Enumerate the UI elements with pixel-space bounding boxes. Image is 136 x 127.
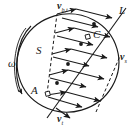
point-marker-C [85, 34, 90, 39]
rotation-arc-outer [16, 26, 31, 94]
velocity-arrow [66, 92, 100, 101]
velocity-arrow [53, 57, 89, 66]
label-point-C: C [93, 29, 100, 40]
velocity-arrow [68, 70, 104, 79]
intersection-dot [66, 62, 70, 66]
velocity-arrow [48, 97, 82, 107]
label-v-bottom: vt [57, 114, 63, 126]
label-line-L: L [119, 5, 125, 16]
velocity-arrow [52, 49, 71, 54]
rotation-arc-group [15, 26, 31, 94]
velocity-arrow [49, 70, 68, 75]
label-surface-S: S [36, 45, 42, 56]
velocity-arrow [55, 28, 74, 33]
dashed-boundaries-group [47, 14, 120, 112]
label-omega: ω [8, 58, 16, 69]
intersection-dot [92, 22, 96, 26]
label-v-right: vs [120, 52, 127, 64]
point-marker-A [45, 91, 50, 96]
intersection-dot [55, 81, 59, 85]
intersection-dot [79, 42, 83, 46]
velocity-arrow [76, 9, 112, 18]
figure-root: vb,t L C S ω vs A vt [0, 0, 136, 127]
label-v-right-subscript: s [124, 57, 126, 64]
velocity-arrow [71, 49, 107, 58]
label-point-A: A [31, 85, 38, 96]
label-v-top-subscript: b,t [61, 6, 67, 13]
velocity-arrow [74, 28, 110, 37]
dashed-right-edge [96, 56, 120, 112]
diagram-canvas [0, 0, 136, 127]
label-v-bottom-subscript: t [61, 119, 63, 126]
label-v-top: vb,t [57, 1, 68, 13]
